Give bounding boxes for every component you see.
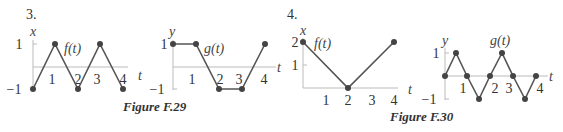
- y-axis-label: x: [299, 23, 307, 38]
- x-axis-label: t: [408, 82, 413, 97]
- x-tick-label: 2: [492, 81, 499, 96]
- y-axis-label: x: [29, 24, 37, 39]
- series-label: g(t): [490, 33, 511, 49]
- y-tick-label: 1: [292, 58, 299, 73]
- y-tick-label: 1: [16, 37, 23, 52]
- x-axis-label: t: [277, 60, 282, 75]
- figure-caption: Figure F.30: [389, 109, 454, 124]
- chart-f30-g: y t 1 −1 1 2 3 4 g(t): [422, 33, 554, 107]
- x-tick-label: 1: [323, 93, 330, 108]
- x-tick-label: 3: [236, 72, 243, 87]
- x-axis-label: t: [138, 68, 143, 83]
- chart-f29-f: x t 1 −1 1 2 3 4 f(t): [7, 24, 143, 97]
- y-tick-label: −1: [7, 82, 22, 97]
- x-tick-label: 2: [345, 93, 352, 108]
- y-tick-label: 1: [161, 37, 168, 52]
- chart-f30-f: x t 2 1 1 2 3 4 f(t): [292, 23, 414, 108]
- y-tick-label: −1: [422, 92, 437, 107]
- series-label: f(t): [314, 36, 331, 52]
- x-tick-label: 1: [49, 72, 56, 87]
- x-tick-label: 3: [94, 72, 101, 87]
- problem-4-label: 4.: [287, 7, 298, 22]
- x-tick-label: 3: [506, 81, 513, 96]
- figures-canvas: 3. 4. x t 1 −1 1 2 3 4 f(t) y t 1 −1 1 2…: [0, 0, 563, 132]
- y-tick-label: −1: [150, 82, 165, 97]
- x-tick-label: 3: [369, 93, 376, 108]
- y-tick-label: 2: [292, 35, 299, 50]
- x-tick-label: 4: [391, 93, 398, 108]
- y-tick-label: 1: [433, 46, 440, 61]
- series-label: f(t): [64, 41, 81, 57]
- x-tick-label: 1: [189, 72, 196, 87]
- problem-3-label: 3.: [26, 7, 37, 22]
- x-tick-label: 4: [537, 81, 544, 96]
- y-axis-label: y: [440, 33, 449, 48]
- x-tick-label: 4: [261, 72, 268, 87]
- chart-f29-g: y t 1 −1 1 2 3 4 g(t): [150, 24, 282, 97]
- y-axis-label: y: [167, 24, 176, 39]
- x-tick-label: 1: [460, 81, 467, 96]
- series-label: g(t): [204, 41, 225, 57]
- x-axis-label: t: [549, 69, 554, 84]
- figure-caption: Figure F.29: [122, 99, 187, 114]
